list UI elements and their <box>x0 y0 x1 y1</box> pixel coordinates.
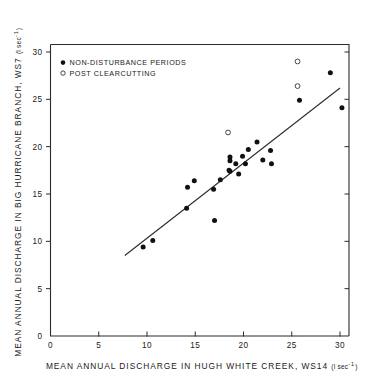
legend: NON-DISTURBANCE PERIODSPOST CLEARCUTTING <box>61 58 187 78</box>
x-tick-label: 25 <box>287 341 297 350</box>
y-tick-label: 5 <box>38 285 43 294</box>
data-point-non-disturbance <box>255 139 260 144</box>
x-tick-label: 10 <box>142 341 152 350</box>
data-point-post-clearcutting <box>226 130 231 135</box>
y-tick-label: 25 <box>33 95 43 104</box>
data-point-non-disturbance <box>141 245 146 250</box>
x-axis-title: MEAN ANNUAL DISCHARGE IN HUGH WHITE CREE… <box>46 361 358 371</box>
figure-container: 051015202530051015202530 NON-DISTURBANCE… <box>0 0 376 379</box>
data-point-non-disturbance <box>328 70 333 75</box>
data-point-non-disturbance <box>297 98 302 103</box>
y-axis-title: MEAN ANNUAL DISCHARGE IN BIG HURRICANE B… <box>13 28 23 357</box>
axis-ticks <box>46 52 349 337</box>
data-point-non-disturbance <box>184 206 189 211</box>
data-point-non-disturbance <box>269 161 274 166</box>
data-point-non-disturbance <box>260 157 265 162</box>
axis-frame-top-right <box>51 45 350 337</box>
data-point-post-clearcutting <box>295 84 300 89</box>
x-tick-label: 0 <box>48 341 53 350</box>
data-points <box>141 59 345 249</box>
axis-frame-left-bottom <box>51 45 350 337</box>
legend-label: POST CLEARCUTTING <box>70 69 157 78</box>
data-point-non-disturbance <box>339 105 344 110</box>
data-point-non-disturbance <box>185 185 190 190</box>
x-tick-label: 20 <box>239 341 249 350</box>
data-point-non-disturbance <box>192 178 197 183</box>
y-tick-label: 0 <box>38 332 43 341</box>
scatter-plot: 051015202530051015202530 NON-DISTURBANCE… <box>0 0 376 379</box>
x-tick-label: 30 <box>335 341 345 350</box>
data-point-non-disturbance <box>212 218 217 223</box>
data-point-non-disturbance <box>243 161 248 166</box>
axis-titles: MEAN ANNUAL DISCHARGE IN HUGH WHITE CREE… <box>13 28 358 371</box>
data-point-non-disturbance <box>150 238 155 243</box>
data-point-non-disturbance <box>218 177 223 182</box>
data-point-non-disturbance <box>236 172 241 177</box>
y-tick-label: 15 <box>33 190 43 199</box>
legend-marker-filled-circle-icon <box>61 60 66 65</box>
y-tick-label: 10 <box>33 237 43 246</box>
data-point-non-disturbance <box>268 148 273 153</box>
legend-label: NON-DISTURBANCE PERIODS <box>70 58 187 67</box>
data-point-non-disturbance <box>233 161 238 166</box>
data-point-post-clearcutting <box>295 59 300 64</box>
y-tick-label: 20 <box>33 143 43 152</box>
data-point-non-disturbance <box>211 187 216 192</box>
axis-tick-labels: 051015202530051015202530 <box>33 48 345 350</box>
data-point-non-disturbance <box>227 158 232 163</box>
y-tick-label: 30 <box>33 48 43 57</box>
series-1 <box>141 70 345 249</box>
data-point-non-disturbance <box>246 147 251 152</box>
legend-marker-open-circle-icon <box>61 71 65 75</box>
axes <box>51 45 350 337</box>
data-point-non-disturbance <box>227 169 232 174</box>
data-point-non-disturbance <box>240 154 245 159</box>
series-2 <box>226 59 300 135</box>
x-tick-label: 15 <box>190 341 200 350</box>
x-tick-label: 5 <box>96 341 101 350</box>
